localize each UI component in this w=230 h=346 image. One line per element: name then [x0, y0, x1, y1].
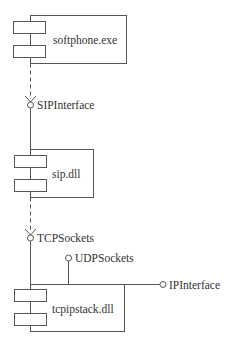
component-tab-icon	[15, 314, 47, 326]
component-label: sip.dll	[52, 168, 80, 181]
interface-label-ipinterface: IPInterface	[169, 279, 220, 291]
component-tab-icon	[14, 22, 46, 34]
component-label: softphone.exe	[53, 34, 117, 47]
component-diagram: softphone.exe SIPInterface sip.dll TCPSo…	[0, 0, 230, 346]
interface-lollipop-icon	[28, 235, 34, 241]
component-softphone: softphone.exe	[14, 16, 127, 64]
component-tab-icon	[15, 180, 47, 192]
component-sip: sip.dll	[15, 150, 94, 198]
arrow-head-icon	[25, 229, 36, 235]
component-tab-icon	[14, 46, 46, 58]
interface-lollipop-icon	[28, 102, 34, 108]
component-tab-icon	[15, 156, 47, 168]
component-tab-icon	[15, 290, 47, 302]
interface-label-tcpsockets: TCPSockets	[37, 232, 94, 244]
interface-label-udpsockets: UDPSockets	[75, 252, 134, 264]
component-tcpipstack: tcpipstack.dll	[15, 285, 125, 332]
component-label: tcpipstack.dll	[52, 303, 114, 316]
interface-lollipop-icon	[66, 255, 72, 261]
interface-lollipop-icon	[160, 282, 166, 288]
interface-label-sipinterface: SIPInterface	[37, 99, 94, 111]
